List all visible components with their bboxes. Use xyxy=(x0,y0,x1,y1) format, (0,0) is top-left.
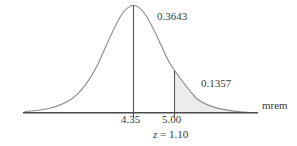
normal-curve xyxy=(25,5,250,112)
axis-tick-label-cutoff: 5.00 xyxy=(162,114,181,125)
z-equation-value: = 1.10 xyxy=(157,128,188,140)
distribution-plot-svg xyxy=(0,0,297,146)
x-axis-unit-label: mrem xyxy=(262,100,288,111)
axis-tick-label-mean: 4.35 xyxy=(121,114,140,125)
area-label-tail: 0.1357 xyxy=(201,78,231,89)
area-label-main: 0.3643 xyxy=(157,11,187,22)
normal-distribution-figure: 0.3643 0.1357 4.35 5.00 z = 1.10 mrem xyxy=(0,0,297,146)
z-score-annotation: z = 1.10 xyxy=(153,129,188,140)
